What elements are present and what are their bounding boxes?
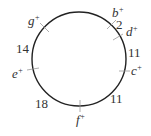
label-e: e+ xyxy=(12,66,23,81)
distance-e-g: 14 xyxy=(16,41,30,56)
label-d: d+ xyxy=(126,24,138,39)
circle-diagram: b+ d+ c+ f+ e+ g+ 2 11 11 18 14 xyxy=(0,0,151,136)
label-c: c+ xyxy=(131,63,142,78)
distance-d-c: 11 xyxy=(128,45,141,60)
label-f: f+ xyxy=(76,112,85,127)
label-g: g+ xyxy=(28,13,40,28)
distance-c-f: 11 xyxy=(110,91,123,106)
distance-b-d: 2 xyxy=(116,17,123,32)
distance-f-e: 18 xyxy=(35,96,48,111)
